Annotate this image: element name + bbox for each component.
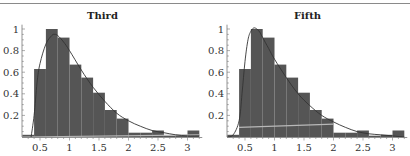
x-axis: 0.511.522.53	[227, 138, 407, 154]
y-tick-label: 0.6	[3, 67, 19, 78]
y-tick-label: 0.6	[208, 67, 224, 78]
x-tick-label: 1.5	[91, 142, 107, 153]
y-tick-label: 0.8	[3, 45, 19, 56]
y-axis: 0.20.40.60.81	[208, 24, 230, 138]
histogram-bar	[345, 133, 357, 137]
histogram-bar	[46, 29, 58, 137]
histogram-panel-fifth: Fifth 0.20.40.60.810.511.522.53	[205, 0, 410, 156]
y-tick-label: 0.2	[208, 110, 224, 121]
y-tick-label: 1	[13, 24, 19, 35]
histogram-bar	[105, 110, 117, 137]
x-tick-label: 0.5	[32, 142, 48, 153]
x-tick-label: 1.5	[296, 142, 312, 153]
x-tick-label: 1	[66, 142, 72, 153]
histogram-plot: 0.20.40.60.810.511.522.53	[205, 0, 410, 156]
x-tick-label: 1	[271, 142, 277, 153]
histogram-bar	[298, 93, 310, 137]
histogram-bar	[129, 133, 141, 137]
histogram-bar	[164, 136, 176, 137]
histogram-bar	[117, 119, 129, 137]
x-tick-label: 2.5	[355, 142, 371, 153]
histogram-bar	[263, 38, 275, 137]
histogram-bar	[81, 78, 93, 137]
histogram-bar	[58, 38, 70, 137]
histogram-bar	[334, 133, 346, 137]
histogram-panel-third: Third 0.20.40.60.810.511.522.53	[0, 0, 205, 156]
x-axis: 0.511.522.53	[22, 138, 202, 154]
histogram-bar	[369, 136, 381, 137]
histogram-plot: 0.20.40.60.810.511.522.53	[0, 0, 205, 156]
x-tick-label: 3	[184, 142, 190, 153]
x-tick-label: 2.5	[150, 142, 166, 153]
histogram-bar	[34, 69, 46, 137]
x-tick-label: 3	[389, 142, 395, 153]
y-tick-label: 0.2	[3, 110, 19, 121]
x-tick-label: 2	[125, 142, 131, 153]
histogram-bars	[227, 29, 404, 137]
x-tick-label: 2	[330, 142, 336, 153]
y-tick-label: 1	[218, 24, 224, 35]
y-tick-label: 0.4	[208, 88, 224, 99]
histogram-bar	[251, 29, 263, 137]
x-tick-label: 0.5	[237, 142, 253, 153]
histogram-bars	[22, 29, 199, 137]
y-axis: 0.20.40.60.81	[3, 24, 25, 138]
histogram-bar	[70, 65, 82, 137]
y-tick-label: 0.8	[208, 45, 224, 56]
y-tick-label: 0.4	[3, 88, 19, 99]
